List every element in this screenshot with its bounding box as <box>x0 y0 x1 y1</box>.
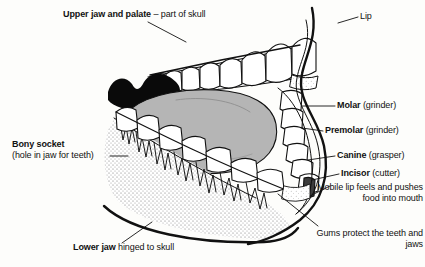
label-bony-socket: Bony socket(hole in jaw for teeth) <box>12 139 94 160</box>
label-incisor: Incisor (cutter) <box>341 168 400 179</box>
leader-lip <box>338 17 358 23</box>
label-upper-jaw: Upper jaw and palate – part of skull <box>63 9 205 20</box>
label-mobile-lip: Mobile lip feels and pushes food into mo… <box>311 182 423 203</box>
illustration-ink <box>104 8 358 244</box>
upper-front-gum <box>290 75 318 90</box>
leader-upper-jaw <box>148 22 186 42</box>
label-premolar: Premolar (grinder) <box>325 125 399 136</box>
label-canine: Canine (grasper) <box>337 150 404 161</box>
label-lower-jaw: Lower jaw hinged to skull <box>73 242 174 253</box>
label-lip: Lip <box>360 11 372 22</box>
anatomy-figure: Upper jaw and palate – part of skull Lip… <box>0 0 425 267</box>
leader-canine <box>308 156 335 160</box>
label-gums: Gums protect the teeth and jaws <box>311 228 423 249</box>
label-molar: Molar (grinder) <box>337 100 396 111</box>
